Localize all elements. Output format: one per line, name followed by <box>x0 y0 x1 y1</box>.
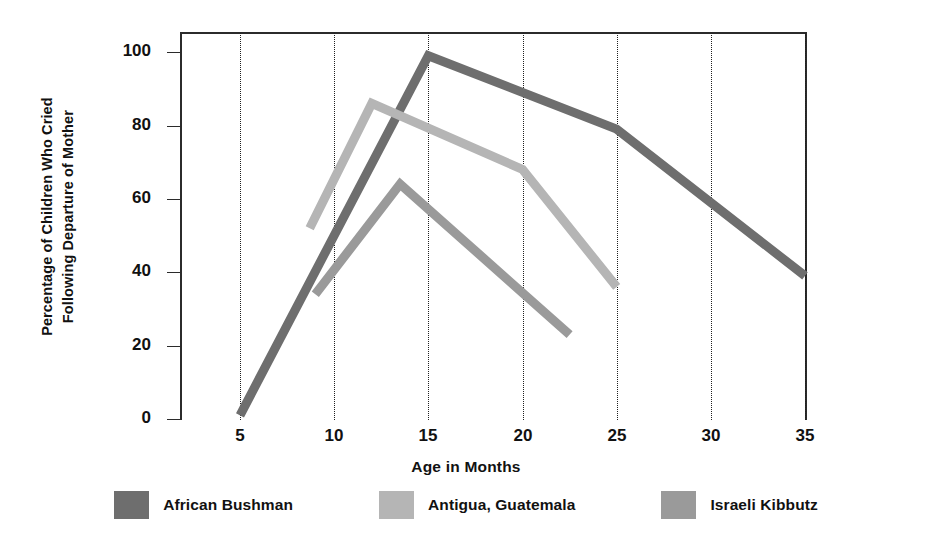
gridline-x-30 <box>711 33 712 420</box>
x-tick-label-20: 20 <box>498 426 548 446</box>
y-tick-label-100: 100 <box>95 41 151 61</box>
legend-label-african-bushman: African Bushman <box>163 496 293 514</box>
plot-border-left <box>180 32 182 420</box>
y-axis-title-line-1: Percentage of Children Who Cried <box>37 47 58 387</box>
y-tick-label-0: 0 <box>95 408 151 428</box>
chart-legend: African Bushman Antigua, Guatemala Israe… <box>0 491 932 519</box>
x-tick-label-5: 5 <box>215 426 265 446</box>
gridline-x-25 <box>617 33 618 420</box>
y-tickmark-60 <box>167 199 180 200</box>
gridline-x-5 <box>240 33 241 420</box>
series-line-antigua-guatemala <box>310 103 617 287</box>
legend-label-israeli-kibbutz: Israeli Kibbutz <box>710 496 817 514</box>
gridline-x-20 <box>523 33 524 420</box>
y-axis-title: Percentage of Children Who Cried Followi… <box>37 47 78 387</box>
y-tick-label-80: 80 <box>95 115 151 135</box>
y-tickmark-20 <box>167 346 180 347</box>
y-tick-label-60: 60 <box>95 188 151 208</box>
legend-swatch-icon-african-bushman <box>114 491 149 519</box>
legend-swatch-icon-israeli-kibbutz <box>661 491 696 519</box>
legend-item-antigua-guatemala: Antigua, Guatemala <box>379 491 575 519</box>
y-tick-label-20: 20 <box>95 335 151 355</box>
y-tickmark-80 <box>167 126 180 127</box>
legend-item-african-bushman: African Bushman <box>114 491 293 519</box>
gridline-x-15 <box>428 33 429 420</box>
x-tick-label-10: 10 <box>309 426 359 446</box>
y-axis-title-line-2: Following Departure of Mother <box>58 47 79 387</box>
gridline-x-35 <box>805 33 806 420</box>
y-tickmark-0 <box>167 419 180 420</box>
x-tick-label-35: 35 <box>780 426 830 446</box>
x-axis-title: Age in Months <box>0 458 932 476</box>
y-tickmark-100 <box>167 52 180 53</box>
x-tick-label-15: 15 <box>403 426 453 446</box>
x-tick-label-30: 30 <box>686 426 736 446</box>
legend-item-israeli-kibbutz: Israeli Kibbutz <box>661 491 817 519</box>
y-tickmark-40 <box>167 272 180 273</box>
gridline-x-10 <box>334 33 335 420</box>
x-tick-label-25: 25 <box>592 426 642 446</box>
y-tick-label-40: 40 <box>95 261 151 281</box>
series-line-israeli-kibbutz <box>315 184 569 335</box>
legend-label-antigua-guatemala: Antigua, Guatemala <box>428 496 575 514</box>
chart-figure: Percentage of Children Who Cried Followi… <box>0 0 932 541</box>
plot-border-top <box>180 32 807 34</box>
legend-swatch-icon-antigua-guatemala <box>379 491 414 519</box>
